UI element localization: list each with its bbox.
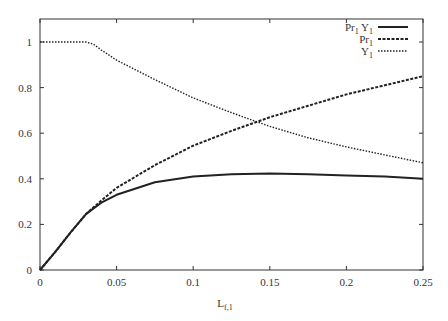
plot-lines — [40, 42, 423, 270]
y-tick-label: 0.6 — [18, 127, 32, 139]
y-tick-label: 0.4 — [18, 173, 32, 185]
legend: Pr1 Y1Pr1Y1 — [345, 21, 408, 60]
y-tick-label: 0 — [27, 264, 33, 276]
series-line — [40, 42, 423, 163]
y-tick-label: 0.8 — [18, 82, 32, 94]
line-chart: 00.050.10.150.20.2500.20.40.60.81 Pr1 Y1… — [0, 0, 448, 321]
x-axis-label: Lf,1 — [217, 297, 232, 312]
series-line — [40, 174, 423, 270]
series-line — [40, 76, 423, 270]
x-tick-label: 0.15 — [260, 276, 280, 288]
y-tick-label: 1 — [27, 36, 33, 48]
x-tick-label: 0.25 — [413, 276, 433, 288]
x-tick-label: 0.1 — [186, 276, 200, 288]
x-tick-label: 0 — [37, 276, 43, 288]
y-tick-label: 0.2 — [18, 218, 32, 230]
x-tick-label: 0.05 — [107, 276, 127, 288]
x-tick-label: 0.2 — [340, 276, 354, 288]
